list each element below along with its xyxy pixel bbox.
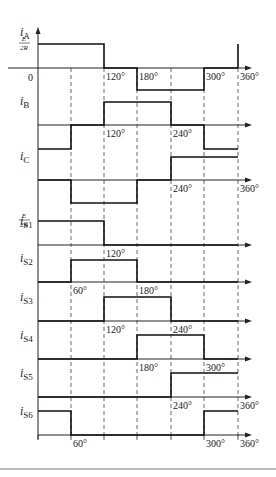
amplitude-numerator: E [21, 35, 27, 43]
degree-label: 120° [106, 248, 125, 259]
degree-label: 360° [240, 183, 259, 194]
x-axis-arrow-icon [245, 433, 252, 438]
labels: iA120°180°300°360°0E2RiB120°240°iC240°36… [19, 25, 259, 449]
degree-label: 360° [240, 438, 259, 449]
waveform-iS6 [38, 411, 238, 435]
label-iS5: iS5 [20, 366, 33, 382]
degree-label: 240° [173, 128, 192, 139]
x-axis-arrow-icon [245, 357, 252, 362]
degree-label: 180° [139, 71, 158, 82]
x-axis-arrow-icon [245, 319, 252, 324]
degree-label: 300° [206, 71, 225, 82]
amplitude-denominator: 2R [20, 44, 29, 52]
waveform-iS4 [38, 335, 238, 359]
degree-label: 60° [73, 438, 87, 449]
waveforms [38, 44, 238, 435]
waveform-iS3 [38, 297, 238, 321]
x-axis-arrow-icon [245, 123, 252, 128]
degree-label: 300° [206, 438, 225, 449]
label-iB: iB [20, 94, 29, 110]
degree-label: 240° [173, 183, 192, 194]
degree-label: 120° [106, 128, 125, 139]
waveform-iA [38, 44, 238, 90]
label-iS6: iS6 [20, 404, 33, 420]
degree-label: 300° [206, 362, 225, 373]
degree-label: 120° [106, 71, 125, 82]
dashed-gridlines [71, 68, 238, 440]
label-iS3: iS3 [20, 290, 33, 306]
waveform-iS1 [38, 221, 238, 245]
degree-label: 120° [106, 324, 125, 335]
waveform-iS2 [38, 260, 238, 282]
x-axis-arrow-icon [245, 66, 252, 71]
label-iS2: iS2 [20, 251, 33, 267]
origin-label: 0 [28, 72, 33, 83]
label-iS4: iS4 [20, 328, 33, 344]
amplitude-denominator: 2R [20, 221, 29, 229]
label-iC: iC [20, 149, 29, 165]
degree-label: 360° [240, 71, 259, 82]
degree-label: 240° [173, 400, 192, 411]
y-axis-arrow-icon [36, 27, 41, 34]
waveform-diagram: iA120°180°300°360°0E2RiB120°240°iC240°36… [0, 0, 276, 477]
degree-label: 240° [173, 324, 192, 335]
waveform-iS5 [38, 373, 238, 397]
axes [8, 27, 252, 440]
degree-label: 60° [73, 285, 87, 296]
degree-label: 180° [139, 362, 158, 373]
degree-label: 180° [139, 285, 158, 296]
amplitude-numerator: E [21, 212, 27, 220]
degree-label: 360° [240, 400, 259, 411]
x-axis-arrow-icon [245, 178, 252, 183]
x-axis-arrow-icon [245, 395, 252, 400]
x-axis-arrow-icon [245, 243, 252, 248]
x-axis-arrow-icon [245, 280, 252, 285]
